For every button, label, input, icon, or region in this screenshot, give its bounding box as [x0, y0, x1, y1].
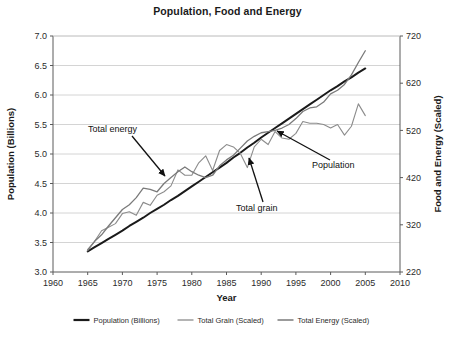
svg-text:520: 520: [406, 126, 421, 136]
legend-item-2[interactable]: Total Energy (Scaled): [278, 316, 370, 325]
annotation-arrow-0: [132, 136, 165, 176]
y2-axis-title: Food and Energy (Scaled): [432, 95, 443, 212]
annotation-arrow-1: [249, 158, 263, 202]
annotation-arrow-2: [277, 131, 330, 160]
svg-text:5.5: 5.5: [34, 120, 47, 130]
y-axis-title: Population (Billions): [5, 108, 16, 200]
svg-text:2000: 2000: [321, 278, 341, 288]
chart-container: Population, Food and Energy 3.03.54.04.5…: [0, 0, 455, 337]
svg-text:6.0: 6.0: [34, 90, 47, 100]
svg-text:1960: 1960: [43, 278, 63, 288]
svg-text:3.5: 3.5: [34, 238, 47, 248]
svg-text:4.5: 4.5: [34, 179, 47, 189]
series-line-2: [88, 51, 366, 250]
legend-item-1[interactable]: Total Grain (Scaled): [178, 316, 265, 325]
svg-text:2005: 2005: [355, 278, 375, 288]
svg-text:1965: 1965: [78, 278, 98, 288]
svg-text:220: 220: [406, 267, 421, 277]
svg-text:2010: 2010: [390, 278, 410, 288]
legend-label-2: Total Energy (Scaled): [298, 316, 370, 325]
svg-text:720: 720: [406, 31, 421, 41]
svg-text:1990: 1990: [251, 278, 271, 288]
svg-text:6.5: 6.5: [34, 61, 47, 71]
annotation-layer: Total energyTotal grainPopulation: [88, 124, 355, 213]
x-axis-title: Year: [216, 292, 236, 303]
grid-lines: [53, 36, 400, 243]
annotation-label-2: Population: [312, 160, 355, 170]
chart-legend: Population (Billions)Total Grain (Scaled…: [74, 316, 370, 325]
svg-text:5.0: 5.0: [34, 149, 47, 159]
svg-text:1985: 1985: [216, 278, 236, 288]
svg-text:1975: 1975: [147, 278, 167, 288]
legend-label-0: Population (Billions): [94, 316, 161, 325]
svg-text:1995: 1995: [286, 278, 306, 288]
svg-text:7.0: 7.0: [34, 31, 47, 41]
svg-text:620: 620: [406, 78, 421, 88]
svg-text:420: 420: [406, 173, 421, 183]
svg-text:3.0: 3.0: [34, 267, 47, 277]
legend-label-1: Total Grain (Scaled): [198, 316, 265, 325]
annotation-label-1: Total grain: [236, 203, 278, 213]
svg-text:4.0: 4.0: [34, 208, 47, 218]
svg-text:320: 320: [406, 220, 421, 230]
svg-text:1970: 1970: [112, 278, 132, 288]
svg-text:1980: 1980: [182, 278, 202, 288]
annotation-label-0: Total energy: [88, 124, 138, 134]
chart-plot: 3.03.54.04.55.05.56.06.57.02203204205206…: [0, 0, 455, 337]
legend-item-0[interactable]: Population (Billions): [74, 316, 161, 325]
data-series-layer: [88, 51, 366, 252]
